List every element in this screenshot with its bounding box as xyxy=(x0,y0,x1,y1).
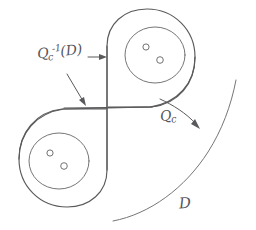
central-seam-horizontal xyxy=(64,107,152,108)
upper-loop-tail xyxy=(108,57,195,107)
label-map: Qc xyxy=(159,107,178,123)
preimage-arrow-diagonal-head xyxy=(79,97,86,106)
figure-canvas: Qc-1(D) Qc D xyxy=(0,0,256,230)
lower-inner-circle xyxy=(29,133,89,189)
lower-puncture-2 xyxy=(61,163,68,170)
lower-loop-tail xyxy=(19,109,106,159)
upper-inner-circle xyxy=(125,27,185,83)
lower-puncture-1 xyxy=(47,150,53,156)
preimage-arrow-diagonal-shaft xyxy=(67,74,83,101)
preimage-arrow-horizontal-head xyxy=(99,54,107,60)
figure-drawing xyxy=(0,0,256,230)
domain-arc xyxy=(113,80,236,221)
upper-puncture-1 xyxy=(143,44,149,50)
upper-puncture-2 xyxy=(157,57,164,64)
label-map-subscript: c xyxy=(170,113,177,125)
label-domain: D xyxy=(178,196,191,212)
label-preimage-argument: (D) xyxy=(59,41,83,59)
